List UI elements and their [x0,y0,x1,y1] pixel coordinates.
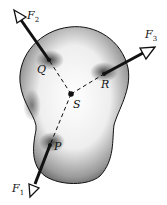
point-r [102,72,106,76]
label-p: P [53,140,62,153]
shade-left [23,89,41,121]
point-q [47,58,51,62]
label-r: R [100,78,109,91]
label-f3: F3 [144,28,157,43]
label-f1: F1 [11,182,24,197]
label-f2: F2 [26,9,39,24]
diagram: S Q R P F2 F3 F1 [0,0,167,205]
force-diagram-svg: S Q R P F2 F3 F1 [0,0,167,205]
label-q: Q [37,63,46,76]
point-p [48,143,52,147]
label-s: S [73,98,81,111]
point-s [68,91,74,97]
